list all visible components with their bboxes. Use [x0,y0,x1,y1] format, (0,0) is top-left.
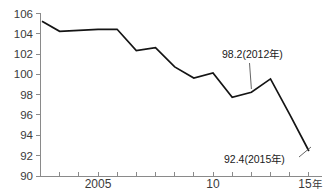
x-axis-tick-labels: 2005 10 15 年 [85,177,322,191]
y-tick-label: 104 [14,28,34,40]
line-chart: 106 104 102 100 98 96 94 92 90 [0,0,326,191]
y-tick-label: 94 [20,129,33,141]
annotation-leader-line-2015 [299,147,311,157]
y-tick-label: 92 [20,150,33,162]
annotation-leader-line-2012 [250,63,252,89]
y-tick-label: 106 [14,8,33,20]
y-tick-label: 90 [20,170,33,182]
data-series-line [42,21,309,151]
chart-canvas: 106 104 102 100 98 96 94 92 90 [0,0,326,191]
y-tick-label: 96 [20,109,33,121]
y-tick-label: 98 [20,89,33,101]
x-tick-label-10: 10 [206,177,220,191]
annotation-label-2015: 92.4(2015年) [224,153,285,165]
annotation-label-2012: 98.2(2012年) [222,48,283,60]
x-axis-unit-label: 年 [312,178,322,190]
y-tick-label: 102 [14,48,33,60]
y-tick-label: 100 [14,68,33,80]
x-tick-marks [60,172,309,177]
x-tick-label-2005: 2005 [85,177,112,191]
x-tick-label-15: 15 [298,177,312,191]
y-tick-marks [36,14,41,177]
y-axis-tick-labels: 106 104 102 100 98 96 94 92 90 [14,8,34,183]
